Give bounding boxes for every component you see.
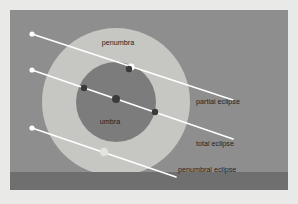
moon-marker-partial-1 — [126, 66, 132, 72]
total-eclipse-label: total eclipse — [196, 139, 234, 148]
ground-band — [10, 172, 288, 190]
partial-eclipse-label: partial eclipse — [196, 97, 240, 106]
moon-marker-total-0 — [81, 85, 87, 91]
penumbra-label: penumbra — [102, 38, 134, 47]
eclipse-diagram-figure: penumbraumbrapartial eclipsetotal eclips… — [0, 0, 298, 204]
path-start-marker-penumbral — [29, 125, 34, 130]
moon-marker-penumbral-0 — [100, 148, 108, 156]
moon-marker-total-2 — [152, 109, 158, 115]
path-start-marker-total — [29, 67, 34, 72]
path-start-marker-partial — [29, 31, 34, 36]
moon-marker-total-1 — [112, 95, 120, 103]
penumbral-eclipse-label: penumbral eclipse — [178, 165, 236, 174]
umbra-label: umbra — [100, 117, 120, 126]
